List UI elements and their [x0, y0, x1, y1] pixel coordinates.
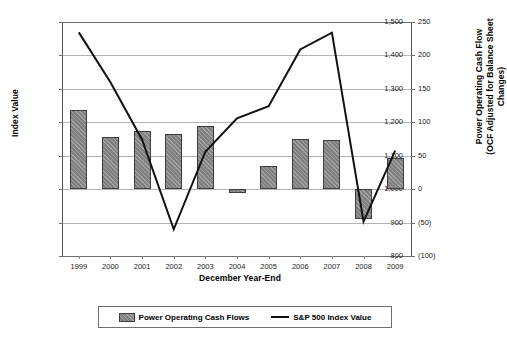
x-axis-tick-mark [237, 256, 238, 259]
x-axis-label-2005: 2005 [252, 262, 286, 271]
x-axis-label-2006: 2006 [283, 262, 317, 271]
x-axis-label-2007: 2007 [315, 262, 349, 271]
plot-area: 8009001,0001,1001,2001,3001,4001,500 (10… [62, 22, 412, 256]
x-axis-label-1999: 1999 [62, 262, 96, 271]
y-axis-left-title: Index Value [10, 68, 20, 158]
y-axis-right-tick-mark [411, 156, 415, 157]
chart-legend: Power Operating Cash Flows S&P 500 Index… [98, 306, 392, 328]
x-axis-label-2009: 2009 [378, 262, 412, 271]
y-axis-right-tick-label: (100) [418, 251, 458, 260]
y-axis-right-tick-mark [411, 55, 415, 56]
x-axis-label-2001: 2001 [125, 262, 159, 271]
bar-swatch-icon [119, 313, 135, 322]
y-axis-right-tick-label: 200 [418, 50, 458, 59]
legend-label-bar: Power Operating Cash Flows [139, 313, 250, 322]
x-axis-tick-mark [395, 256, 396, 259]
y-axis-right-tick-label: (50) [418, 218, 458, 227]
legend-label-line: S&P 500 Index Value [293, 313, 371, 322]
x-axis-label-2000: 2000 [93, 262, 127, 271]
y-axis-left-tick-mark [59, 256, 63, 257]
x-axis-tick-mark [174, 256, 175, 259]
x-axis-label-2002: 2002 [157, 262, 191, 271]
x-axis-tick-mark [205, 256, 206, 259]
y-axis-right-tick-mark [411, 22, 415, 23]
y-axis-right-title-line2: (OCF Adjusted for Balance Sheet Changes) [485, 2, 507, 172]
line-swatch-icon [271, 316, 289, 318]
y-axis-right-tick-mark [411, 89, 415, 90]
line-series [63, 22, 411, 256]
x-axis-tick-mark [364, 256, 365, 259]
x-axis-tick-mark [269, 256, 270, 259]
x-axis-label-2004: 2004 [220, 262, 254, 271]
y-axis-right-tick-label: 100 [418, 117, 458, 126]
y-axis-right-tick-label: 0 [418, 184, 458, 193]
y-axis-right-tick-mark [411, 256, 415, 257]
x-axis-label-2008: 2008 [347, 262, 381, 271]
y-axis-right-title: Power Operating Cash Flow (OCF Adjusted … [474, 2, 507, 172]
x-axis-title: December Year-End [120, 273, 360, 283]
x-axis-tick-mark [300, 256, 301, 259]
x-axis-tick-mark [142, 256, 143, 259]
y-axis-right-tick-label: 150 [418, 84, 458, 93]
legend-item-bar: Power Operating Cash Flows [119, 313, 250, 322]
y-axis-right-tick-mark [411, 223, 415, 224]
x-axis-tick-mark [79, 256, 80, 259]
x-axis-label-2003: 2003 [188, 262, 222, 271]
y-axis-right-tick-mark [411, 122, 415, 123]
y-axis-right-tick-label: 250 [418, 17, 458, 26]
x-axis-tick-mark [110, 256, 111, 259]
y-axis-right-tick-mark [411, 189, 415, 190]
x-axis-tick-mark [332, 256, 333, 259]
sp500-line-path [79, 32, 395, 229]
legend-item-line: S&P 500 Index Value [271, 313, 371, 322]
y-axis-right-title-line1: Power Operating Cash Flow [474, 2, 485, 172]
y-axis-right-tick-label: 50 [418, 151, 458, 160]
